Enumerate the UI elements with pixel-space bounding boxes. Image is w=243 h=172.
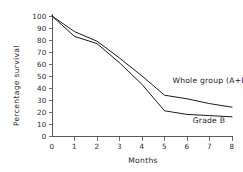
x-axis-tick-label: 3: [117, 142, 122, 151]
y-axis-tick-label: 0: [42, 132, 47, 141]
y-axis-tick-label: 80: [37, 36, 47, 45]
x-axis-tick-label: 7: [207, 142, 212, 151]
series-line: [52, 16, 232, 107]
y-axis-tick-label: 60: [37, 60, 47, 69]
x-axis-tick-label: 2: [95, 142, 100, 151]
series-line-group: [52, 16, 232, 117]
y-axis-tick-label: 50: [37, 72, 47, 81]
y-axis-tick-label: 20: [37, 108, 47, 117]
y-axis-tick-label: 100: [32, 12, 47, 21]
y-axis-tick-label: 90: [37, 24, 47, 33]
series-inline-label: Whole group (A+B): [172, 76, 243, 85]
series-line: [52, 16, 232, 117]
x-axis-title: Months: [128, 156, 158, 165]
y-axis-tick-label: 30: [37, 96, 47, 105]
series-inline-label: Grade B: [193, 116, 226, 125]
x-axis-tick-label: 1: [72, 142, 77, 151]
x-axis-tick-label: 0: [50, 142, 55, 151]
y-axis-tick-label: 40: [37, 84, 47, 93]
x-axis-tick-label: 6: [185, 142, 190, 151]
x-axis-tick-label: 4: [140, 142, 145, 151]
series-label-group: Whole group (A+B)Grade B: [172, 76, 243, 125]
x-axis-tick-group: 012345678: [50, 136, 235, 151]
y-axis-title: Percentage survival: [12, 45, 21, 126]
chart-canvas: 0102030405060708090100 012345678 Percent…: [0, 0, 243, 172]
x-axis-tick-label: 5: [162, 142, 167, 151]
y-axis-tick-label: 10: [37, 120, 47, 129]
y-axis-tick-label: 70: [37, 48, 47, 57]
x-axis-tick-label: 8: [230, 142, 235, 151]
y-axis-tick-group: 0102030405060708090100: [32, 12, 52, 141]
survival-chart-figure: 0102030405060708090100 012345678 Percent…: [0, 0, 243, 172]
